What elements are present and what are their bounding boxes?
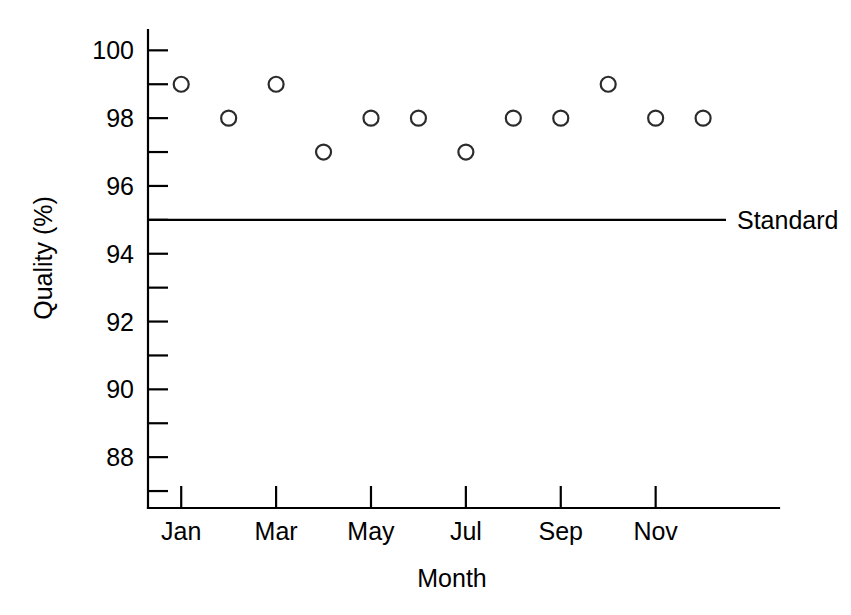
- standard-line-label: Standard: [737, 206, 838, 234]
- x-axis-title: Month: [417, 564, 486, 592]
- y-tick-label: 96: [106, 172, 134, 200]
- data-point-marker: [458, 145, 473, 160]
- y-axis-tick-labels: 100989694929088: [92, 36, 134, 471]
- data-point-marker: [506, 111, 521, 126]
- x-tick-label: May: [347, 517, 395, 545]
- y-axis-ticks: [148, 50, 168, 491]
- x-tick-label: Sep: [539, 517, 583, 545]
- y-tick-label: 98: [106, 104, 134, 132]
- y-axis-title: Quality (%): [29, 196, 57, 320]
- data-point-marker: [174, 77, 189, 92]
- x-tick-label: Mar: [255, 517, 298, 545]
- y-tick-label: 90: [106, 375, 134, 403]
- data-point-marker: [648, 111, 663, 126]
- y-tick-label: 94: [106, 240, 134, 268]
- chart-figure: 100989694929088 JanMarMayJulSepNov Stand…: [0, 0, 851, 615]
- quality-scatter-chart: 100989694929088 JanMarMayJulSepNov Stand…: [0, 0, 851, 615]
- data-point-marker: [269, 77, 284, 92]
- data-point-marker: [221, 111, 236, 126]
- y-tick-label: 88: [106, 443, 134, 471]
- x-tick-label: Jul: [450, 517, 482, 545]
- y-tick-label: 92: [106, 308, 134, 336]
- data-point-marker: [553, 111, 568, 126]
- data-point-marker: [696, 111, 711, 126]
- x-tick-label: Jan: [161, 517, 201, 545]
- data-point-marker: [316, 145, 331, 160]
- data-point-marker: [363, 111, 378, 126]
- y-tick-label: 100: [92, 36, 134, 64]
- axes-spines: [148, 30, 779, 508]
- data-point-markers: [174, 77, 711, 160]
- data-point-marker: [601, 77, 616, 92]
- x-axis-ticks: [181, 486, 655, 508]
- data-point-marker: [411, 111, 426, 126]
- x-tick-label: Nov: [633, 517, 678, 545]
- x-axis-tick-labels: JanMarMayJulSepNov: [161, 517, 678, 545]
